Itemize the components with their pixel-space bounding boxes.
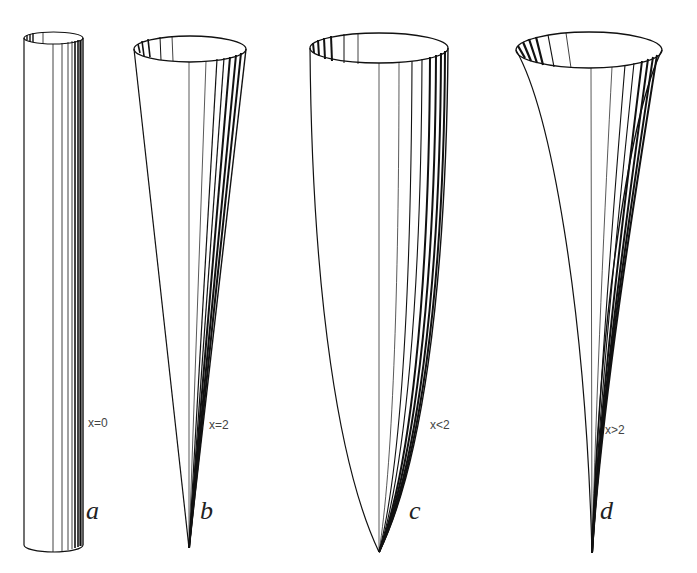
horn-d (516, 32, 662, 553)
condition-label-c: x<2 (430, 418, 450, 432)
figure-canvas (0, 0, 697, 573)
panel-letter-b: b (200, 496, 213, 526)
panel-letter-c: c (409, 496, 421, 526)
cylinder-a (24, 32, 83, 552)
condition-label-d: x>2 (605, 423, 625, 437)
condition-label-b: x=2 (209, 418, 229, 432)
condition-label-a: x=0 (88, 416, 108, 430)
panel-letter-a: a (86, 496, 99, 526)
cone-b (134, 36, 246, 548)
bowl-c (310, 33, 448, 552)
panel-letter-d: d (600, 496, 613, 526)
